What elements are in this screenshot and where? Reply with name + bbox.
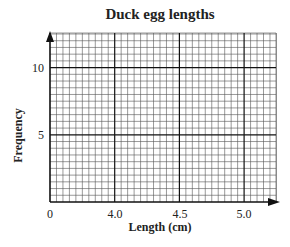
x-tick-5-0: 5.0 [229, 207, 259, 222]
y-axis-label: Frequency [11, 96, 26, 176]
y-axis-arrow-icon [46, 31, 54, 42]
x-axis-label: Length (cm) [100, 220, 220, 235]
x-axis-arrow-icon [268, 198, 280, 206]
y-tick-5: 5 [24, 128, 44, 143]
y-tick-10: 10 [24, 61, 44, 76]
x-tick-0: 0 [35, 207, 65, 222]
